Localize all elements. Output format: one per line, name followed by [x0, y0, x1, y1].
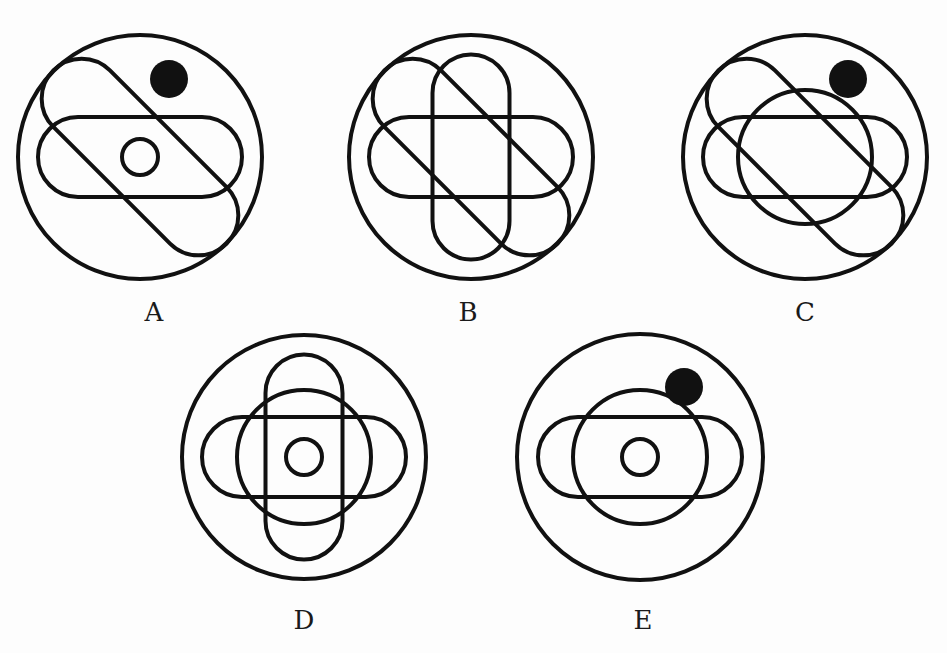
vertical-pill: [266, 355, 343, 560]
diagonal-pill: [690, 42, 920, 272]
small-circle: [286, 439, 322, 475]
small-circle: [122, 139, 158, 175]
horizontal-pill: [703, 117, 907, 197]
figure-panel: A B C D E: [0, 0, 947, 653]
figure-label-b: B: [458, 299, 477, 325]
figure-label-e: E: [634, 607, 653, 633]
figure-label-c: C: [795, 299, 815, 325]
horizontal-pill: [538, 417, 742, 497]
outer-circle: [182, 335, 426, 579]
horizontal-pill: [369, 117, 573, 197]
medium-circle: [573, 390, 707, 524]
figure-d: [182, 335, 426, 579]
diagonal-pill: [356, 42, 586, 272]
figure-b: [349, 35, 593, 279]
filled-dot: [150, 60, 188, 98]
figure-label-d: D: [294, 607, 315, 633]
filled-dot: [829, 60, 867, 98]
small-circle: [622, 439, 658, 475]
figure-label-a: A: [145, 299, 164, 325]
filled-dot: [665, 368, 703, 406]
medium-circle: [738, 90, 872, 224]
medium-circle: [237, 390, 371, 524]
figure-a: [18, 35, 262, 279]
horizontal-pill: [202, 417, 406, 497]
vertical-pill: [433, 55, 510, 260]
diagonal-pill: [25, 42, 255, 272]
figure-e: [517, 334, 763, 580]
horizontal-pill: [38, 117, 242, 197]
figure-c: [683, 35, 927, 279]
outer-circle: [517, 334, 763, 580]
